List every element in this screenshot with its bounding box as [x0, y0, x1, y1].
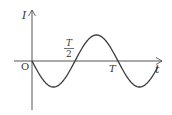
current-time-graph: I t O T 2 T [0, 0, 172, 115]
period-label: T [109, 63, 117, 74]
half-period-numerator: T [66, 38, 73, 48]
origin-label: O [21, 61, 29, 72]
x-axis-label: t [155, 63, 160, 76]
y-axis-label: I [21, 9, 27, 22]
half-period-denominator: 2 [66, 49, 72, 59]
graph-canvas: I t O T 2 T [0, 0, 172, 115]
